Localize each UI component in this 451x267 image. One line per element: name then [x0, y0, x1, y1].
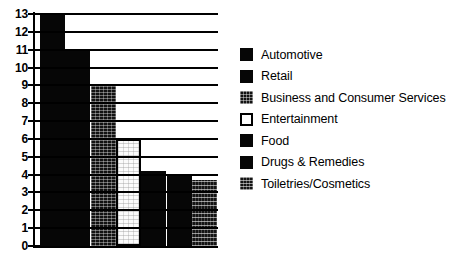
bar-retail [65, 50, 90, 246]
y-axis-tick-mark [28, 245, 40, 247]
bar-toiletries-cosmetics [192, 180, 217, 246]
legend-item-label: Toiletries/Cosmetics [261, 178, 370, 191]
gridline [35, 209, 218, 211]
legend-swatch-icon [240, 48, 253, 61]
legend-item[interactable]: Toiletries/Cosmetics [240, 173, 451, 195]
bar-chart-figure: 131211109876543210 AutomotiveRetailBusin… [0, 0, 451, 267]
legend-item-label: Automotive [261, 49, 323, 62]
chart-legend: AutomotiveRetailBusiness and Consumer Se… [240, 44, 451, 195]
gridline [35, 120, 218, 122]
legend-item[interactable]: Automotive [240, 44, 451, 66]
gridline [35, 174, 218, 176]
gridline [35, 138, 218, 140]
gridline [35, 156, 218, 158]
gridline [35, 227, 218, 229]
legend-swatch-icon [240, 177, 253, 190]
gridline [35, 191, 218, 193]
legend-swatch-icon [240, 70, 253, 83]
bar-business-and-consumer-services [91, 85, 116, 246]
legend-item-label: Retail [261, 70, 292, 83]
legend-swatch-icon [240, 91, 253, 104]
legend-item-label: Entertainment [261, 113, 338, 126]
gridline [35, 102, 218, 104]
legend-item-label: Food [261, 135, 289, 148]
gridline [35, 13, 218, 15]
legend-swatch-icon [240, 113, 253, 126]
gridline [35, 49, 218, 51]
legend-item[interactable]: Business and Consumer Services [240, 87, 451, 109]
plot-region: 131211109876543210 [0, 0, 230, 267]
legend-item[interactable]: Drugs & Remedies [240, 152, 451, 174]
gridline [35, 31, 218, 33]
legend-item[interactable]: Food [240, 130, 451, 152]
legend-item-label: Business and Consumer Services [261, 92, 446, 105]
legend-item[interactable]: Entertainment [240, 109, 451, 131]
legend-item-label: Drugs & Remedies [261, 156, 364, 169]
gridline [35, 67, 218, 69]
legend-swatch-icon [240, 134, 253, 147]
legend-swatch-icon [240, 156, 253, 169]
gridline [35, 84, 218, 86]
legend-item[interactable]: Retail [240, 66, 451, 88]
